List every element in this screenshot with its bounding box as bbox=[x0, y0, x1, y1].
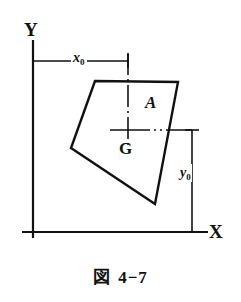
x0-subscript: 0 bbox=[80, 57, 85, 67]
y-axis-label: Y bbox=[24, 20, 38, 39]
y0-dimension-label: y0 bbox=[179, 164, 192, 182]
caption-number: 4−7 bbox=[118, 268, 148, 287]
x-axis-label: X bbox=[209, 222, 223, 241]
x0-symbol: x bbox=[73, 50, 80, 65]
figure-container: Y X A G x0 y0 図4−7 bbox=[0, 0, 241, 302]
area-symbol-label: A bbox=[145, 94, 156, 111]
x0-dimension-label: x0 bbox=[71, 51, 87, 65]
figure-caption: 図4−7 bbox=[0, 263, 241, 288]
y0-subscript: 0 bbox=[186, 172, 191, 182]
caption-kanji-glyph: 図 bbox=[93, 263, 111, 288]
centroid-symbol-label: G bbox=[119, 140, 132, 157]
